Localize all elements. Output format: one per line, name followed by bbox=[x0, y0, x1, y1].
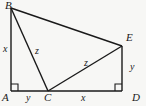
figure-canvas bbox=[0, 0, 146, 106]
right-angle-marker-a bbox=[11, 84, 18, 91]
side-label-ab: x bbox=[3, 44, 7, 54]
side-label-de: y bbox=[130, 62, 134, 72]
segment-bc bbox=[11, 8, 48, 91]
segment-ce bbox=[48, 46, 122, 91]
side-label-bc: z bbox=[35, 46, 39, 56]
side-label-ac: y bbox=[26, 93, 30, 103]
right-angle-marker-d bbox=[115, 84, 122, 91]
vertex-label-d: D bbox=[132, 92, 140, 103]
vertex-label-b: B bbox=[5, 0, 12, 11]
vertex-label-a: A bbox=[2, 92, 9, 103]
geometry-figure: B A C D E x y x y z z bbox=[0, 0, 146, 106]
side-label-ce: z bbox=[84, 58, 88, 68]
side-label-cd: x bbox=[81, 93, 85, 103]
vertex-label-c: C bbox=[44, 92, 51, 103]
segment-be bbox=[11, 8, 122, 46]
vertex-label-e: E bbox=[126, 32, 133, 43]
